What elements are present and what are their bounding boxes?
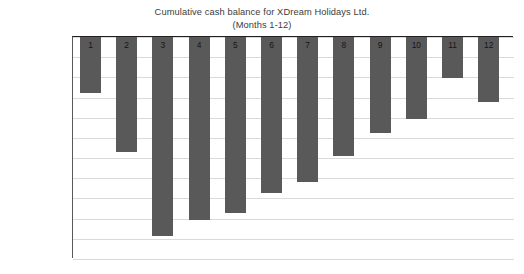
bar: [442, 37, 463, 78]
bar: [406, 37, 427, 119]
bar: [225, 37, 246, 213]
bar: [80, 37, 101, 93]
chart-title: Cumulative cash balance for XDream Holid…: [0, 6, 524, 19]
bar: [189, 37, 210, 220]
gridline: [73, 118, 514, 119]
bar: [261, 37, 282, 193]
bar: [370, 37, 391, 133]
chart-subtitle: (Months 1-12): [0, 19, 524, 32]
bar: [297, 37, 318, 182]
bar-chart: Cumulative cash balance for XDream Holid…: [0, 0, 524, 274]
gridline: [73, 178, 514, 179]
plot-area: £0–£20,000–£40,000–£60,000–£80,000–£100,…: [72, 36, 513, 258]
gridline: [73, 239, 514, 240]
gridline: [73, 158, 514, 159]
bar: [116, 37, 137, 152]
gridline: [73, 259, 514, 260]
gridline: [73, 98, 514, 99]
chart-title-block: Cumulative cash balance for XDream Holid…: [0, 6, 524, 31]
gridline: [73, 219, 514, 220]
gridline: [73, 138, 514, 139]
bar: [152, 37, 173, 236]
bar: [333, 37, 354, 156]
gridline: [73, 198, 514, 199]
bar: [478, 37, 499, 102]
